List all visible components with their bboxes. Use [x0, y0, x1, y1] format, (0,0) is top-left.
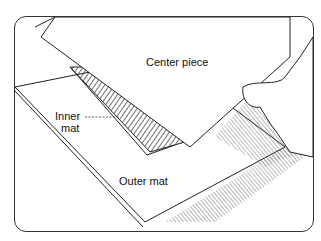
inner-mat-label-line2: mat	[61, 122, 79, 134]
illustration-frame: Center piece Inner mat Outer mat	[14, 16, 314, 232]
center-piece-label: Center piece	[146, 56, 208, 68]
inner-mat-label-line1: Inner	[55, 110, 80, 122]
outer-mat-label: Outer mat	[119, 175, 168, 187]
mat-illustration	[15, 17, 313, 231]
